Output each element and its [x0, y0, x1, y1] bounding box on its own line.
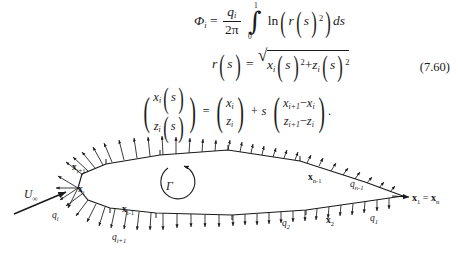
te-right-sub: n [436, 198, 440, 205]
ln-function: ln [268, 13, 279, 28]
label-q-i: qi [52, 210, 59, 222]
label-x-2-sub: 2 [331, 220, 334, 227]
integral-sign: ∫ [248, 14, 262, 28]
equals-sign-2: = [246, 56, 254, 71]
label-q-i-sub: i [57, 215, 59, 222]
label-x-i-minus-1: xi-1 [122, 204, 134, 216]
equation-line-2: r(s) = √ xi(s)2+zi(s)2 [212, 50, 349, 81]
plus-s-term: + s [250, 104, 266, 118]
circulation-symbol-label: Γ [165, 179, 174, 193]
panel-node-markers [106, 145, 306, 220]
x-sub-r: i [273, 65, 275, 74]
label-q-i-plus-1: qi+1 [112, 232, 126, 244]
x-sub-r1a: i+1 [289, 102, 300, 111]
minus-row-1: − [300, 96, 307, 110]
matrix-mid: xi zi [226, 95, 234, 130]
matrix-rhs: xi+1−xi zi+1−zi [283, 95, 315, 130]
close-paren-x: ) [293, 52, 299, 81]
label-x-i-plus-1: xi+1 [72, 162, 85, 174]
matrix-close-paren-mid: ) [237, 96, 243, 129]
leading-edge-arrows [56, 176, 78, 208]
q-over-2pi-fraction: qi 2π [223, 5, 241, 38]
freestream-label: U∞ [24, 188, 38, 203]
label-q-n-minus-1-sub: n-1 [355, 184, 364, 191]
minus-row-2: − [300, 114, 307, 128]
integral-lower-limit: 0 [248, 32, 252, 41]
label-q-1: q1 [370, 213, 378, 225]
close-paren-inner: ) [311, 8, 317, 37]
x-sub-m1: i [159, 96, 161, 105]
matrix-lhs-row-1: xi(s) [153, 84, 186, 113]
open-paren-inner: ( [296, 8, 302, 37]
equals-sign-1: = [210, 13, 218, 28]
s-symbol-4: s [330, 57, 335, 72]
label-x-i-sub: i [83, 189, 85, 196]
figure-labels: xi+1 xi xi-1 x2 xn-1 qi qi [52, 162, 440, 244]
open-paren-x: ( [277, 52, 283, 81]
freestream-arrow [14, 192, 66, 214]
r-symbol: r [288, 13, 293, 28]
label-x-i-plus-1-sub: i+1 [77, 167, 86, 174]
label-x-i: xi [78, 184, 85, 196]
equation-block: Φi = qi 2π 1 ∫ 0 ln(r(s)2)ds r(s) = √ xi… [0, 0, 458, 130]
equation-line-1: Φi = qi 2π 1 ∫ 0 ln(r(s)2)ds [194, 6, 345, 39]
matrix-open-paren-lhs: ( [143, 96, 149, 129]
s-m1: s [171, 90, 176, 104]
label-x-n-minus-1-sub: n-1 [313, 177, 322, 184]
label-q-1-sub: 1 [375, 218, 378, 225]
matrix-close-paren-lhs: ) [189, 96, 195, 129]
square-exponent-1: 2 [319, 14, 323, 23]
equals-sign-3: = [202, 104, 209, 118]
open-paren-z: ( [322, 52, 328, 81]
close-paren-outer: ) [325, 8, 331, 37]
x-sub-r1b: i [312, 102, 314, 111]
paren-m1-open: ( [163, 84, 169, 113]
r-symbol-2: r [212, 56, 217, 71]
label-x-2: x2 [326, 215, 334, 227]
open-paren-r: ( [220, 51, 226, 80]
paren-m1-close: ) [178, 84, 184, 113]
matrix-close-paren-rhs: ) [318, 96, 324, 129]
label-x-n-minus-1: xn-1 [308, 172, 321, 184]
open-paren-outer: ( [281, 8, 287, 37]
square-root: √ xi(s)2+zi(s)2 [258, 50, 349, 81]
z-sub-r: i [318, 65, 320, 74]
close-paren-r: ) [235, 51, 241, 80]
label-q-2-sub: 2 [287, 223, 291, 230]
label-trailing-edge: x1 = xn [412, 192, 440, 205]
matrix-open-paren-mid: ( [216, 96, 222, 129]
fraction-numerator: qi [223, 5, 241, 21]
q-symbol: q [227, 4, 234, 19]
equation-number: (7.60) [420, 60, 450, 75]
matrix-mid-row-1: xi [226, 95, 234, 113]
close-paren-z: ) [337, 52, 343, 81]
integral-operator: 1 ∫ 0 [248, 12, 262, 32]
x-sub-m3: i [231, 102, 233, 111]
matrix-rhs-row-1: xi+1−xi [283, 95, 315, 113]
te-equals: = [420, 192, 431, 203]
source-strength-arrows-lower [66, 194, 389, 230]
s-symbol-1: s [304, 13, 309, 28]
radical-tick: √ [258, 49, 267, 62]
textbook-figure-page: Φi = qi 2π 1 ∫ 0 ln(r(s)2)ds r(s) = √ xi… [0, 0, 458, 261]
s-symbol-3: s [285, 57, 290, 72]
freestream-subscript: ∞ [32, 194, 37, 203]
phi-symbol: Φ [194, 13, 204, 28]
airfoil-panel-diagram: U∞ Γ xi+1 xi xi-1 [0, 128, 458, 261]
differential-ds: ds [333, 13, 345, 28]
matrix-open-paren-rhs: ( [273, 96, 279, 129]
trailing-period: . [328, 104, 331, 118]
q-subscript: i [234, 11, 236, 20]
source-strength-arrows-upper [66, 136, 395, 192]
fraction-denominator: 2π [223, 21, 241, 38]
s-symbol-2: s [227, 56, 232, 71]
radicand: xi(s)2+zi(s)2 [267, 50, 349, 81]
phi-subscript: i [204, 21, 206, 30]
exp-z: 2 [345, 58, 349, 67]
label-x-i-minus-1-sub: i-1 [127, 209, 134, 216]
label-q-i-plus-1-sub: i+1 [117, 237, 126, 244]
label-q-2: q2 [282, 218, 291, 230]
